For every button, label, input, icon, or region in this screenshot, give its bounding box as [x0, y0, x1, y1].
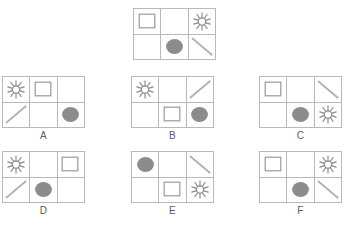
option-f-label: F: [259, 205, 342, 216]
filled-circle-icon: [165, 38, 184, 55]
option-d[interactable]: D: [2, 151, 85, 216]
option-b-cell-r1c1: [132, 77, 159, 103]
filled-circle-icon: [61, 106, 80, 123]
option-b-grid: [131, 76, 214, 128]
option-d-cell-r1c2: [30, 152, 57, 178]
option-a-cell-r2c3: [58, 103, 85, 129]
diagonal-line-down-icon: [317, 80, 339, 99]
option-e-cell-r1c2: [159, 152, 186, 178]
option-c-cell-r1c3: [315, 77, 342, 103]
option-c-grid: [259, 76, 342, 128]
filled-circle-icon: [136, 156, 155, 173]
option-d-cell-r1c1: [3, 152, 30, 178]
reference-panel-grid: [133, 8, 216, 60]
option-d-label: D: [2, 205, 85, 216]
option-f-cell-r1c1: [260, 152, 287, 178]
option-a-cell-r2c2: [30, 103, 57, 129]
option-f-cell-r2c1: [260, 178, 287, 204]
option-f-cell-r2c2: [287, 178, 314, 204]
matrix-reasoning-puzzle: ABCDEF: [0, 0, 347, 225]
square-outline-icon: [34, 81, 53, 98]
diagonal-line-up-icon: [5, 180, 27, 199]
option-f-grid: [259, 151, 342, 203]
diagonal-line-down-icon: [191, 37, 213, 56]
starburst-icon: [6, 155, 26, 174]
option-b-cell-r2c3: [187, 103, 214, 129]
option-b-label: B: [131, 130, 214, 141]
option-d-grid: [2, 151, 85, 203]
diagonal-line-down-icon: [189, 155, 211, 174]
option-f-cell-r1c3: [315, 152, 342, 178]
square-outline-icon: [264, 156, 283, 173]
option-a-label: A: [2, 130, 85, 141]
option-d-cell-r2c2: [30, 178, 57, 204]
option-f-cell-r2c3: [315, 178, 342, 204]
option-b-cell-r2c1: [132, 103, 159, 129]
option-a-cell-r2c1: [3, 103, 30, 129]
option-e-grid: [131, 151, 214, 203]
option-c-cell-r1c2: [287, 77, 314, 103]
option-e-cell-r2c1: [132, 178, 159, 204]
reference-panel-cell-r2c1: [134, 35, 161, 61]
option-e-cell-r2c3: [187, 178, 214, 204]
option-c-cell-r2c2: [287, 103, 314, 129]
option-a-grid: [2, 76, 85, 128]
option-c-cell-r1c1: [260, 77, 287, 103]
option-a-cell-r1c1: [3, 77, 30, 103]
option-e-label: E: [131, 205, 214, 216]
starburst-icon: [318, 105, 338, 124]
option-b-cell-r1c3: [187, 77, 214, 103]
square-outline-icon: [264, 81, 283, 98]
option-f-cell-r1c2: [287, 152, 314, 178]
reference-panel-cell-r1c2: [161, 9, 188, 35]
filled-circle-icon: [34, 181, 53, 198]
option-e-cell-r1c3: [187, 152, 214, 178]
diagonal-line-up-icon: [189, 80, 211, 99]
square-outline-icon: [163, 106, 182, 123]
square-outline-icon: [138, 13, 157, 30]
option-c-label: C: [259, 130, 342, 141]
starburst-icon: [318, 155, 338, 174]
option-c-cell-r2c3: [315, 103, 342, 129]
diagonal-line-up-icon: [5, 105, 27, 124]
reference-panel-cell-r2c3: [189, 35, 216, 61]
option-f[interactable]: F: [259, 151, 342, 216]
square-outline-icon: [163, 181, 182, 198]
diagonal-line-down-icon: [317, 180, 339, 199]
option-b-cell-r1c2: [159, 77, 186, 103]
starburst-icon: [192, 12, 212, 31]
reference-panel-cell-r1c1: [134, 9, 161, 35]
option-d-cell-r2c3: [58, 178, 85, 204]
option-d-cell-r2c1: [3, 178, 30, 204]
option-a-cell-r1c2: [30, 77, 57, 103]
option-a-cell-r1c3: [58, 77, 85, 103]
option-b[interactable]: B: [131, 76, 214, 141]
starburst-icon: [6, 80, 26, 99]
option-a[interactable]: A: [2, 76, 85, 141]
filled-circle-icon: [291, 181, 310, 198]
reference-panel-cell-r1c3: [189, 9, 216, 35]
option-e-cell-r2c2: [159, 178, 186, 204]
starburst-icon: [190, 180, 210, 199]
filled-circle-icon: [291, 106, 310, 123]
reference-panel-cell-r2c2: [161, 35, 188, 61]
filled-circle-icon: [190, 106, 209, 123]
square-outline-icon: [61, 156, 80, 173]
option-c[interactable]: C: [259, 76, 342, 141]
starburst-icon: [135, 80, 155, 99]
option-e-cell-r1c1: [132, 152, 159, 178]
option-c-cell-r2c1: [260, 103, 287, 129]
option-b-cell-r2c2: [159, 103, 186, 129]
option-d-cell-r1c3: [58, 152, 85, 178]
reference-panel: [133, 8, 216, 60]
option-e[interactable]: E: [131, 151, 214, 216]
